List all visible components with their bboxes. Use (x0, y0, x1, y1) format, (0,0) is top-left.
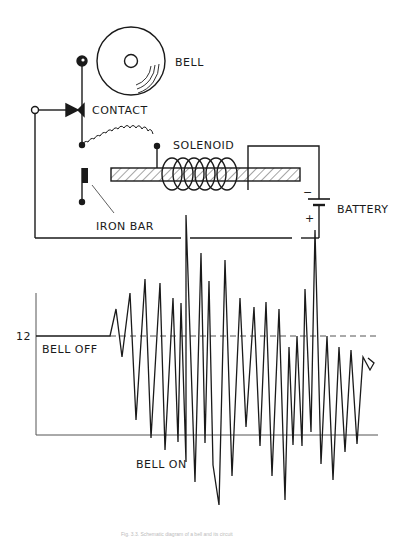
iron-bar-icon (80, 168, 115, 213)
flexible-wire (82, 126, 153, 146)
sound-waveform (36, 215, 374, 505)
bell-circuit-diagram: BELL CONTACT SOLENOID IRON BAR BATTERY −… (0, 0, 408, 537)
bell-on-label: BELL ON (136, 458, 187, 471)
bell-off-label: BELL OFF (42, 343, 98, 356)
contact-point (32, 104, 85, 238)
bell-label: BELL (175, 56, 204, 69)
battery-plus-label: + (305, 212, 315, 225)
contact-label: CONTACT (92, 104, 148, 117)
figure-caption: Fig. 3.3. Schematic diagram of a bell an… (121, 531, 233, 537)
bell-icon (97, 27, 165, 95)
battery-minus-label: − (303, 186, 313, 199)
hammer-arm (77, 56, 87, 145)
axis-tick-label: 12 (16, 330, 31, 343)
battery-label: BATTERY (337, 203, 389, 216)
solenoid-label: SOLENOID (173, 139, 234, 152)
iron-bar-label: IRON BAR (96, 220, 154, 233)
